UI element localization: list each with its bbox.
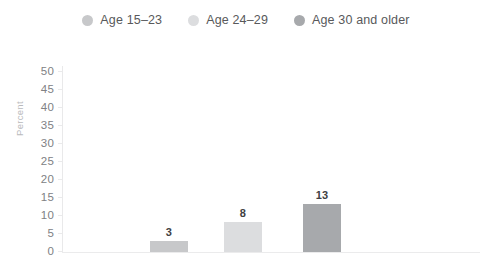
y-tick-label: 40 — [41, 101, 54, 113]
y-tick-label: 25 — [41, 155, 54, 167]
bar-chart: Age 15–23 Age 24–29 Age 30 and older Per… — [0, 0, 492, 274]
y-axis-ticks: 50 45 40 35 30 25 20 15 10 5 0 — [0, 0, 54, 274]
bar-value-label: 8 — [224, 207, 262, 219]
bar-age-24-29[interactable] — [224, 222, 262, 252]
y-tick-label: 15 — [41, 191, 54, 203]
bar-group-age-24-29: 8 — [224, 0, 262, 274]
bar-value-label: 3 — [150, 226, 188, 238]
bar-age-30-and-older[interactable] — [303, 204, 341, 252]
y-tick-label: 20 — [41, 173, 54, 185]
bar-age-15-23[interactable] — [150, 241, 188, 252]
y-tick-label: 30 — [41, 137, 54, 149]
bars-layer: 3 8 13 — [62, 0, 480, 274]
y-tick-label: 0 — [47, 245, 54, 257]
y-tick-label: 10 — [41, 209, 54, 221]
y-tick-label: 50 — [41, 65, 54, 77]
y-tick-label: 45 — [41, 83, 54, 95]
bar-group-age-15-23: 3 — [150, 0, 188, 274]
bar-value-label: 13 — [303, 189, 341, 201]
y-tick-label: 35 — [41, 119, 54, 131]
bar-group-age-30-and-older: 13 — [303, 0, 341, 274]
y-tick-label: 5 — [47, 227, 54, 239]
